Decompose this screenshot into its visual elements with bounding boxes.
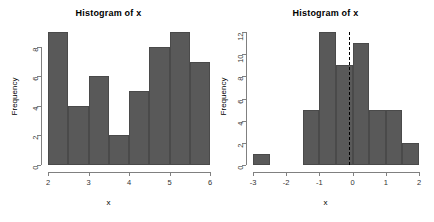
x-axis-tick bbox=[129, 172, 130, 176]
x-axis-tick bbox=[89, 172, 90, 176]
x-axis-tick bbox=[286, 172, 287, 176]
histogram-bar bbox=[190, 62, 210, 165]
x-axis-tick bbox=[419, 172, 420, 176]
x-axis-tick bbox=[253, 172, 254, 176]
x-axis-line bbox=[253, 172, 419, 173]
x-axis-tick-label: 2 bbox=[407, 178, 431, 187]
histogram-bar bbox=[303, 110, 320, 165]
y-axis-tick-label: 4 bbox=[236, 121, 245, 137]
y-axis-tick-label: 6 bbox=[31, 77, 40, 93]
y-axis-tick-label: 2 bbox=[236, 143, 245, 159]
y-axis-tick-label: 2 bbox=[31, 136, 40, 152]
histogram-bar bbox=[170, 32, 190, 165]
x-axis-title-left: x bbox=[0, 198, 217, 207]
x-axis-tick-label: 5 bbox=[158, 178, 182, 187]
y-axis-tick-label: 8 bbox=[236, 77, 245, 93]
histogram-bar bbox=[253, 154, 270, 165]
y-axis-tick-label: 8 bbox=[31, 47, 40, 63]
y-axis-title-left: Frequency bbox=[10, 67, 19, 127]
histogram-bar bbox=[402, 143, 419, 165]
histogram-bar bbox=[353, 43, 370, 165]
histogram-bar bbox=[369, 110, 386, 165]
chart-panel-left: Histogram of x x Frequency 2345602468 bbox=[0, 0, 217, 222]
bars-left bbox=[48, 32, 210, 165]
x-axis-tick-label: 3 bbox=[77, 178, 101, 187]
histogram-bar bbox=[149, 47, 169, 165]
y-axis-tick-label: 12 bbox=[236, 33, 245, 49]
histogram-figure: Histogram of x x Frequency 2345602468 Hi… bbox=[0, 0, 434, 222]
x-axis-tick-label: 1 bbox=[374, 178, 398, 187]
y-axis-line bbox=[41, 47, 42, 165]
y-axis-tick-label: 0 bbox=[31, 166, 40, 182]
y-axis-tick-label: 10 bbox=[236, 55, 245, 71]
plot-area-right bbox=[253, 32, 419, 165]
x-axis-tick-label: -3 bbox=[241, 178, 265, 187]
x-axis-tick bbox=[210, 172, 211, 176]
bars-right bbox=[253, 32, 419, 165]
x-axis-tick bbox=[319, 172, 320, 176]
histogram-bar bbox=[319, 32, 336, 165]
x-axis-tick bbox=[170, 172, 171, 176]
histogram-bar bbox=[48, 32, 68, 165]
mean-vline bbox=[349, 32, 350, 165]
x-axis-tick bbox=[353, 172, 354, 176]
y-axis-line bbox=[246, 32, 247, 165]
x-axis-tick bbox=[386, 172, 387, 176]
x-axis-tick-label: -2 bbox=[274, 178, 298, 187]
x-axis-tick-label: 4 bbox=[117, 178, 141, 187]
histogram-bar bbox=[109, 135, 129, 165]
histogram-bar bbox=[68, 106, 88, 165]
chart-panel-right: Histogram of x x Frequency -3-2-10120246… bbox=[217, 0, 434, 222]
histogram-bar bbox=[129, 91, 149, 165]
x-axis-tick-label: -1 bbox=[307, 178, 331, 187]
y-axis-title-right: Frequency bbox=[219, 67, 228, 127]
histogram-bar bbox=[386, 110, 403, 165]
y-axis-tick-label: 6 bbox=[236, 99, 245, 115]
y-axis-tick-label: 4 bbox=[31, 106, 40, 122]
histogram-bar bbox=[89, 76, 109, 165]
chart-title-left: Histogram of x bbox=[0, 8, 217, 18]
y-axis-tick-label: 0 bbox=[236, 166, 245, 182]
x-axis-tick-label: 0 bbox=[341, 178, 365, 187]
chart-title-right: Histogram of x bbox=[217, 8, 434, 18]
x-axis-tick-label: 2 bbox=[36, 178, 60, 187]
x-axis-title-right: x bbox=[217, 198, 434, 207]
plot-area-left bbox=[48, 32, 210, 165]
x-axis-tick bbox=[48, 172, 49, 176]
